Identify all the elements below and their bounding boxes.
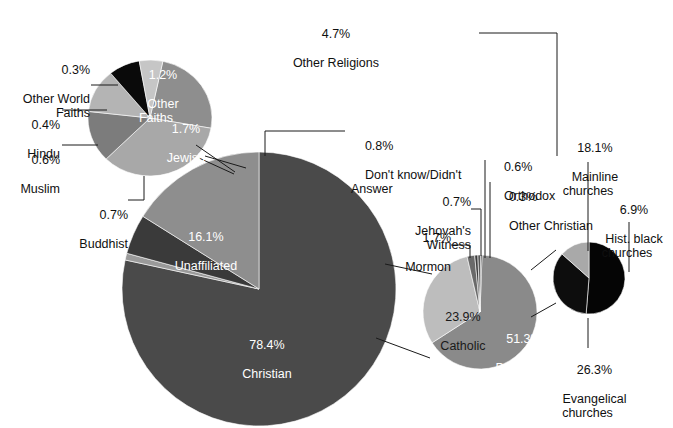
label-hist-black-pct: 6.9% [620, 203, 649, 217]
label-mainline-pct: 18.1% [577, 141, 612, 155]
label-other-religions-pct: 4.7% [322, 27, 351, 41]
leader-protestant-explode-1 [531, 250, 556, 270]
label-hist-black-name: Hist. blackchurches [602, 232, 663, 261]
label-buddhist-name: Buddhist [79, 237, 128, 251]
label-dont-know-pct: 0.8% [365, 139, 394, 153]
inner-label-jewish-name: Jewish [167, 151, 205, 165]
label-other-christian-pct: 0.3% [509, 190, 538, 204]
inner-label-unaffiliated: 16.1% Unaffiliated [147, 215, 251, 288]
leader-buddhist [128, 176, 144, 200]
label-mormon: 1.7% Mormon [381, 216, 451, 289]
label-orthodox-pct: 0.6% [504, 160, 533, 174]
label-hindu-pct: 0.4% [32, 118, 61, 132]
inner-label-protestant-name: Protestant [495, 361, 552, 375]
inner-label-unaffiliated-name: Unaffiliated [175, 259, 237, 273]
label-evangelical-name: Evangelicalchurches [562, 392, 626, 421]
inner-label-christian: 78.4% Christian [212, 323, 308, 396]
inner-label-unaffiliated-pct: 16.1% [188, 230, 223, 244]
inner-label-jewish: 1.7% Jewish [145, 107, 213, 180]
inner-label-protestant-pct: 51.3% [506, 332, 541, 346]
label-mormon-pct: 1.7% [423, 231, 452, 245]
label-other-religions: 4.7% Other Religions [179, 12, 479, 85]
inner-label-other-faiths-pct: 1.2% [149, 68, 178, 82]
inner-label-christian-pct: 78.4% [249, 338, 284, 352]
inner-label-protestant: 51.3% Protestant [472, 317, 562, 390]
label-buddhist-pct: 0.7% [100, 208, 129, 222]
label-mormon-name: Mormon [405, 260, 451, 274]
label-buddhist: 0.7% Buddhist [40, 193, 128, 266]
label-other-world-faiths-pct: 0.3% [62, 63, 91, 77]
leader-dont-know [265, 131, 345, 156]
label-other-religions-name: Other Religions [293, 56, 379, 70]
label-evangelical-pct: 26.3% [577, 363, 612, 377]
inner-label-christian-name: Christian [242, 367, 291, 381]
pie-chart-figure: 0.3% Other WorldFaiths 0.4% Hindu 0.6% M… [0, 0, 673, 428]
label-muslim-pct: 0.6% [32, 153, 61, 167]
label-jehovahs-witness-pct: 0.7% [443, 195, 472, 209]
label-hist-black: 6.9% Hist. blackchurches [581, 188, 673, 275]
leader-jehovahs-witness [471, 209, 481, 256]
inner-label-jewish-pct: 1.7% [172, 122, 201, 136]
